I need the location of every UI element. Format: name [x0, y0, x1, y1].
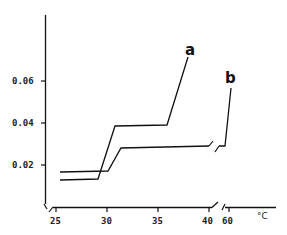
x-unit-label: °C: [257, 211, 268, 221]
x-tick-label-40: 40: [202, 216, 213, 226]
x-tick-label-25: 25: [50, 216, 61, 226]
x-tick-label-60: 60: [222, 216, 233, 226]
chart: 0.06 0.04 0.02 25 30 35 40 60 °C a b: [0, 0, 287, 235]
series-b-break-mark: [209, 141, 219, 152]
series-b-line-extended: [219, 88, 231, 146]
series-a-label: a: [185, 41, 195, 59]
origin-break-mark: [44, 204, 53, 212]
x-tick-label-35: 35: [152, 216, 163, 226]
y-tick-label-002: 0.02: [12, 160, 34, 170]
y-tick-label-004: 0.04: [12, 118, 34, 128]
x-tick-label-30: 30: [101, 216, 112, 226]
series-b-line: [60, 146, 209, 172]
x-axis-break-mark: [212, 202, 225, 210]
series-b-label: b: [225, 69, 236, 87]
chart-svg: 0.06 0.04 0.02 25 30 35 40 60 °C a b: [0, 0, 287, 235]
series-a-line: [60, 57, 188, 180]
y-tick-label-006: 0.06: [12, 76, 34, 86]
